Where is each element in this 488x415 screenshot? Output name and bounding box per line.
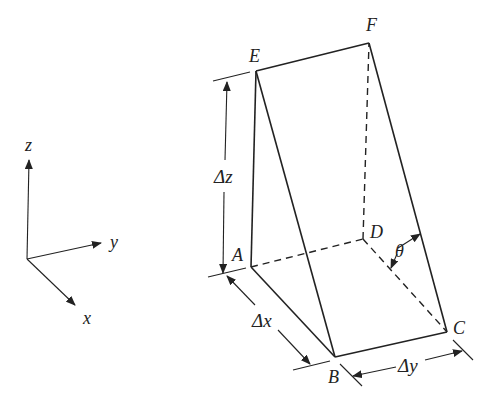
- dimension-dx: Δx: [227, 276, 330, 370]
- vertex-label-C: C: [453, 318, 466, 338]
- dz-label: Δz: [213, 166, 233, 187]
- dx-arrow-forward: [278, 330, 310, 364]
- coordinate-axes: z y x: [24, 135, 118, 328]
- extension-line-A: [208, 268, 246, 277]
- y-axis-arrow: [27, 243, 101, 259]
- hidden-edge-DF: [363, 43, 369, 239]
- wedge-diagram: z y x E F A B C D Δz Δx: [0, 0, 488, 415]
- vertex-label-B: B: [328, 367, 339, 387]
- vertex-label-D: D: [369, 222, 383, 242]
- dz-arrow-down: [223, 192, 224, 273]
- dy-arrow-right: [425, 351, 462, 360]
- vertex-label-F: F: [365, 15, 378, 35]
- theta-label: θ: [395, 241, 404, 261]
- x-axis-label: x: [82, 308, 91, 328]
- edge-EA: [251, 71, 256, 267]
- dy-arrow-left: [353, 367, 396, 376]
- z-axis-label: z: [24, 135, 32, 155]
- vertex-label-A: A: [231, 245, 244, 265]
- vertex-label-E: E: [248, 46, 260, 66]
- dx-arrow-back: [227, 276, 255, 305]
- edge-FC: [369, 43, 447, 332]
- vertex-labels: E F A B C D: [231, 15, 466, 387]
- y-axis-label: y: [108, 232, 118, 252]
- x-axis-arrow: [27, 259, 75, 305]
- dimension-dy: Δy: [340, 340, 473, 386]
- edge-BC: [335, 332, 447, 357]
- edge-EF: [256, 43, 369, 71]
- angle-theta: θ: [391, 234, 420, 268]
- extension-line-E: [213, 72, 250, 81]
- dz-arrow-up: [225, 82, 227, 160]
- extension-line-C: [453, 340, 473, 360]
- wedge-solid: [251, 43, 447, 357]
- z-axis-arrow: [27, 160, 29, 259]
- dimension-dz: Δz: [208, 72, 250, 277]
- dx-label: Δx: [251, 310, 272, 331]
- extension-line-B: [293, 361, 330, 370]
- dy-label: Δy: [397, 355, 418, 376]
